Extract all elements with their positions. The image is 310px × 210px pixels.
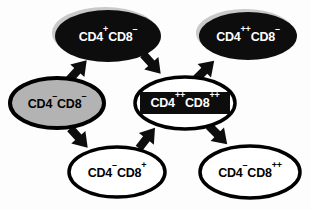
lineage-diagram: CD4+CD8– CD4++CD8– CD4–CD8– CD4++CD8++ [0,0,310,210]
node-cd4-minus-cd8-minus[interactable]: CD4–CD8– [10,78,104,128]
diagram-canvas: CD4+CD8– CD4++CD8– CD4–CD8– CD4++CD8++ [0,0,310,210]
node-cd4-plusplus-cd8-minus[interactable]: CD4++CD8– [199,12,297,60]
node-cd4-minus-cd8-plus[interactable]: CD4–CD8+ [69,147,165,197]
node-cd4-plusplus-cd8-minus-shape[interactable] [199,12,297,60]
node-cd4-plus-cd8-minus[interactable]: CD4+CD8– [55,10,161,62]
node-cd4-minus-cd8-plusplus[interactable]: CD4–CD8++ [200,146,300,198]
node-cd4-plusplus-cd8-plusplus[interactable]: CD4++CD8++ [135,77,235,129]
